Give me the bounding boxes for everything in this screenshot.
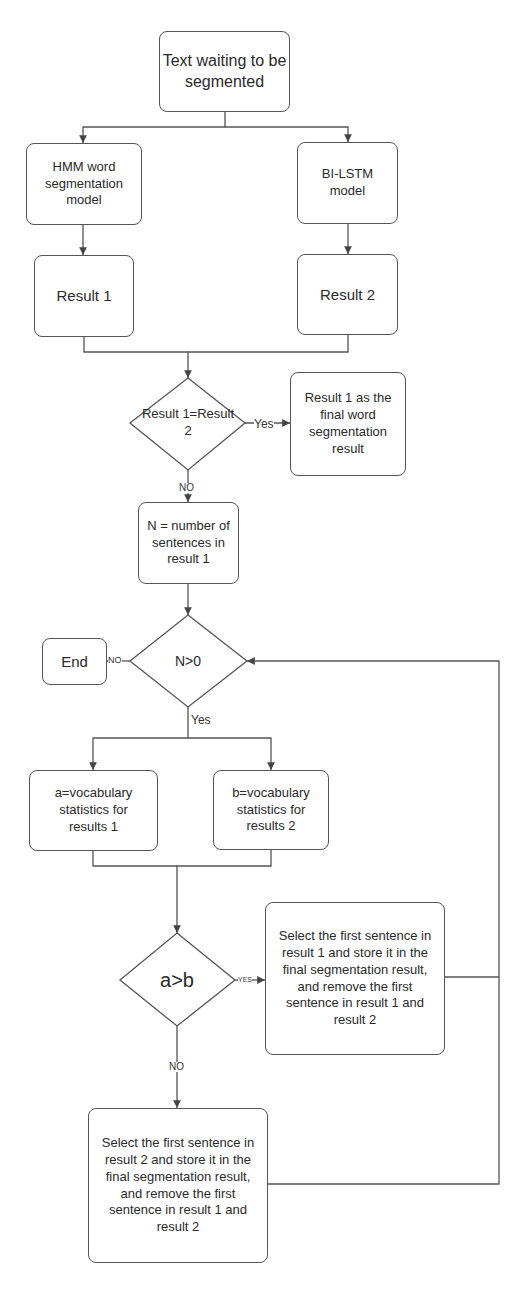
decision-equal: Result 1=Result 2 <box>140 395 236 451</box>
hmm-model-node: HMM word segmentation model <box>26 143 142 225</box>
edge-label-equal-yes: Yes <box>254 418 274 430</box>
vocab-b-text: b=vocabulary statistics for results 2 <box>220 785 322 836</box>
bilstm-model-node: BI-LSTM model <box>297 142 398 224</box>
select-result1-text: Select the first sentence in result 1 an… <box>272 928 438 1029</box>
decision-ab-text: a>b <box>160 967 194 993</box>
start-node-text: Text waiting to be segmented <box>160 51 289 93</box>
edge-label-n-yes: Yes <box>191 714 211 726</box>
start-node: Text waiting to be segmented <box>159 31 290 112</box>
end-text: End <box>61 652 88 672</box>
select-result2-text: Select the first sentence in result 2 an… <box>95 1135 261 1236</box>
result1-node: Result 1 <box>34 255 134 337</box>
result2-text: Result 2 <box>320 285 375 305</box>
vocab-a-text: a=vocabulary statistics for results 1 <box>40 785 147 836</box>
final-result1-text: Result 1 as the final word segmentation … <box>297 390 399 458</box>
vocab-b-node: b=vocabulary statistics for results 2 <box>213 770 329 850</box>
hmm-model-text: HMM word segmentation model <box>31 159 137 210</box>
result1-text: Result 1 <box>56 286 111 306</box>
edge-label-equal-no: NO <box>179 483 194 493</box>
final-result1-node: Result 1 as the final word segmentation … <box>290 372 406 476</box>
select-result2-node: Select the first sentence in result 2 an… <box>88 1108 268 1263</box>
end-node: End <box>42 638 107 685</box>
count-n-node: N = number of sentences in result 1 <box>138 502 239 584</box>
count-n-text: N = number of sentences in result 1 <box>143 518 234 569</box>
result2-node: Result 2 <box>297 254 398 335</box>
decision-equal-text: Result 1=Result 2 <box>140 406 236 440</box>
edge-label-ab-yes: YES <box>238 976 252 983</box>
decision-ab: a>b <box>137 962 217 998</box>
select-result1-node: Select the first sentence in result 1 an… <box>265 902 445 1055</box>
decision-n: N>0 <box>150 645 226 677</box>
bilstm-model-text: BI-LSTM model <box>312 166 383 200</box>
edge-label-ab-no: NO <box>169 1062 184 1072</box>
vocab-a-node: a=vocabulary statistics for results 1 <box>29 770 158 851</box>
edge-label-n-no: NO <box>108 656 122 665</box>
decision-n-text: N>0 <box>175 652 201 670</box>
